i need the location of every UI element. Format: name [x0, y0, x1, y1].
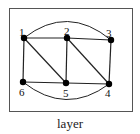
node-6	[20, 79, 26, 85]
node-label-6: 6	[19, 86, 25, 98]
figure-caption: layer	[0, 116, 140, 132]
node-label-1: 1	[19, 26, 25, 38]
node-label-5: 5	[63, 87, 69, 99]
edge-6-1	[23, 38, 24, 82]
edge-5-6	[23, 82, 66, 83]
edge-4-5	[66, 83, 109, 84]
edge-1-5	[24, 38, 66, 83]
edge-2-3	[67, 38, 111, 40]
node-5	[63, 80, 69, 86]
graph-edges	[23, 38, 111, 84]
graph-diagram: 123456	[0, 0, 140, 134]
node-label-2: 2	[64, 25, 70, 37]
edge-2-5	[66, 38, 67, 83]
node-label-4: 4	[105, 87, 111, 99]
node-label-3: 3	[106, 27, 112, 39]
edge-2-4	[67, 38, 109, 84]
edge-3-4	[109, 40, 111, 84]
